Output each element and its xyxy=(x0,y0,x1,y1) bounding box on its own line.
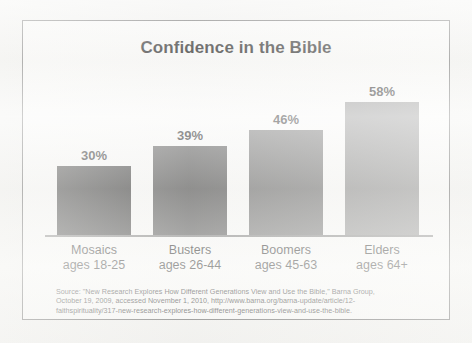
category-name: Mosaics xyxy=(57,243,131,258)
bar-value-label: 30% xyxy=(81,149,107,162)
bar-group: 30% 39% 46% 58% xyxy=(57,69,419,235)
bar-item-elders[interactable]: 58% xyxy=(345,69,419,235)
source-citation: Source: "New Research Explores How Diffe… xyxy=(56,287,424,315)
source-line-2: October 19, 2009, accessed November 1, 2… xyxy=(56,296,424,305)
bar-value-label: 58% xyxy=(369,85,395,98)
category-age-range: ages 18-25 xyxy=(57,258,131,273)
category-name: Busters xyxy=(153,243,227,258)
source-line-3: faithspirituality/317-new-research-explo… xyxy=(56,306,424,315)
bar-item-boomers[interactable]: 46% xyxy=(249,69,323,235)
chart-frame: Confidence in the Bible 30% 39% 46% 58% xyxy=(22,20,450,320)
bar-value-label: 39% xyxy=(177,129,203,142)
category-name: Elders xyxy=(345,243,419,258)
bar-rect[interactable] xyxy=(57,166,131,235)
x-tick-boomers: Boomers ages 45-63 xyxy=(249,243,323,273)
category-age-range: ages 45-63 xyxy=(249,258,323,273)
x-tick-busters: Busters ages 26-44 xyxy=(153,243,227,273)
bar-value-label: 46% xyxy=(273,113,299,126)
x-tick-elders: Elders ages 64+ xyxy=(345,243,419,273)
bar-rect[interactable] xyxy=(345,102,419,235)
category-age-range: ages 64+ xyxy=(345,258,419,273)
plot-area: 30% 39% 46% 58% xyxy=(57,69,419,235)
x-axis-tick-labels: Mosaics ages 18-25 Busters ages 26-44 Bo… xyxy=(57,243,419,273)
bar-rect[interactable] xyxy=(153,146,227,235)
x-axis-line xyxy=(45,235,433,237)
bar-item-busters[interactable]: 39% xyxy=(153,69,227,235)
category-age-range: ages 26-44 xyxy=(153,258,227,273)
bar-item-mosaics[interactable]: 30% xyxy=(57,69,131,235)
x-tick-mosaics: Mosaics ages 18-25 xyxy=(57,243,131,273)
chart-title: Confidence in the Bible xyxy=(23,38,449,58)
bar-rect[interactable] xyxy=(249,130,323,235)
source-line-1: Source: "New Research Explores How Diffe… xyxy=(56,287,424,296)
category-name: Boomers xyxy=(249,243,323,258)
